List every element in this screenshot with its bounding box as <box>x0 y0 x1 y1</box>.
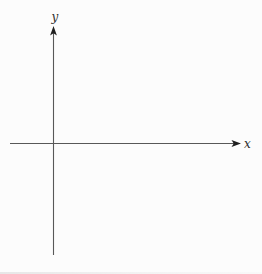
x-axis-label: x <box>244 137 251 151</box>
y-axis-label: y <box>51 10 59 24</box>
axes-drawing: y x <box>0 0 262 274</box>
coordinate-plane-figure: y x <box>0 0 262 274</box>
